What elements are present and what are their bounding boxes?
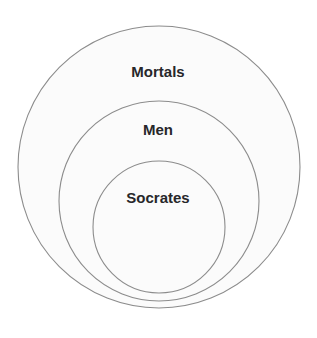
euler-diagram-canvas: Mortals Men Socrates <box>0 0 317 338</box>
set-circle-socrates[interactable] <box>93 161 225 293</box>
set-label-socrates: Socrates <box>126 189 189 206</box>
euler-diagram-svg: Mortals Men Socrates <box>0 0 317 338</box>
set-label-men: Men <box>143 121 173 138</box>
set-label-mortals: Mortals <box>131 63 184 80</box>
